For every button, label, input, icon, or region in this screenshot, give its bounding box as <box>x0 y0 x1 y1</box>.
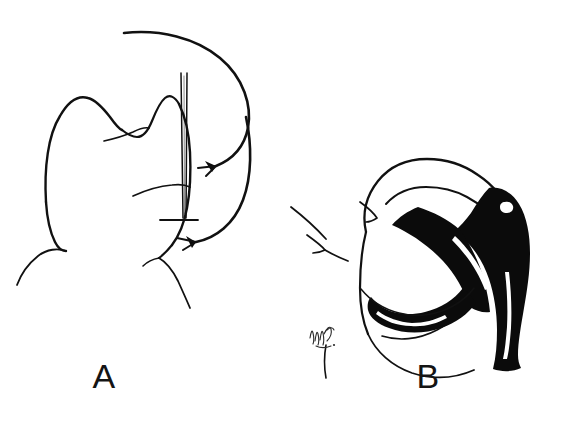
medical-illustration-svg: A <box>0 0 582 421</box>
panel-a-letter: A <box>92 357 115 395</box>
black-flap-highlight <box>500 202 513 213</box>
figure-container: A <box>0 0 582 421</box>
panel-b-letter: B <box>416 357 439 395</box>
